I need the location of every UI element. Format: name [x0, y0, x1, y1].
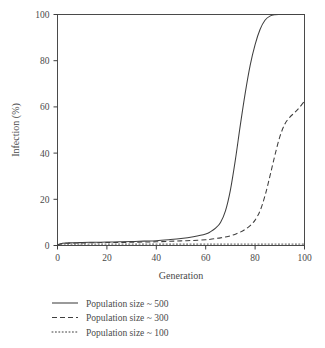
- x-axis-ticks: 020406080100: [55, 246, 312, 263]
- chart-legend: Population size ~ 500Population size ~ 3…: [52, 299, 169, 338]
- x-tick-label: 0: [55, 253, 60, 263]
- legend-label-2: Population size ~ 300: [86, 313, 169, 323]
- y-tick-label: 40: [40, 149, 50, 159]
- y-tick-label: 20: [40, 195, 50, 205]
- y-tick-label: 80: [40, 56, 50, 66]
- chart-figure: 020406080100 020406080100 Generation Inf…: [0, 0, 325, 348]
- y-tick-label: 100: [35, 10, 50, 20]
- legend-label-1: Population size ~ 500: [86, 299, 169, 309]
- x-tick-label: 20: [102, 253, 112, 263]
- x-axis-title: Generation: [159, 270, 203, 281]
- y-axis-ticks: 020406080100: [35, 10, 57, 251]
- legend-label-3: Population size ~ 100: [86, 328, 169, 338]
- y-tick-label: 60: [40, 102, 50, 112]
- x-tick-label: 40: [152, 253, 162, 263]
- plot-panel-border: [58, 15, 305, 246]
- y-axis-title: Infection (%): [10, 103, 22, 157]
- y-tick-label: 0: [45, 241, 50, 251]
- x-tick-label: 100: [297, 253, 312, 263]
- x-tick-label: 80: [250, 253, 260, 263]
- x-tick-label: 60: [201, 253, 211, 263]
- line-chart-svg: 020406080100 020406080100 Generation Inf…: [0, 0, 325, 348]
